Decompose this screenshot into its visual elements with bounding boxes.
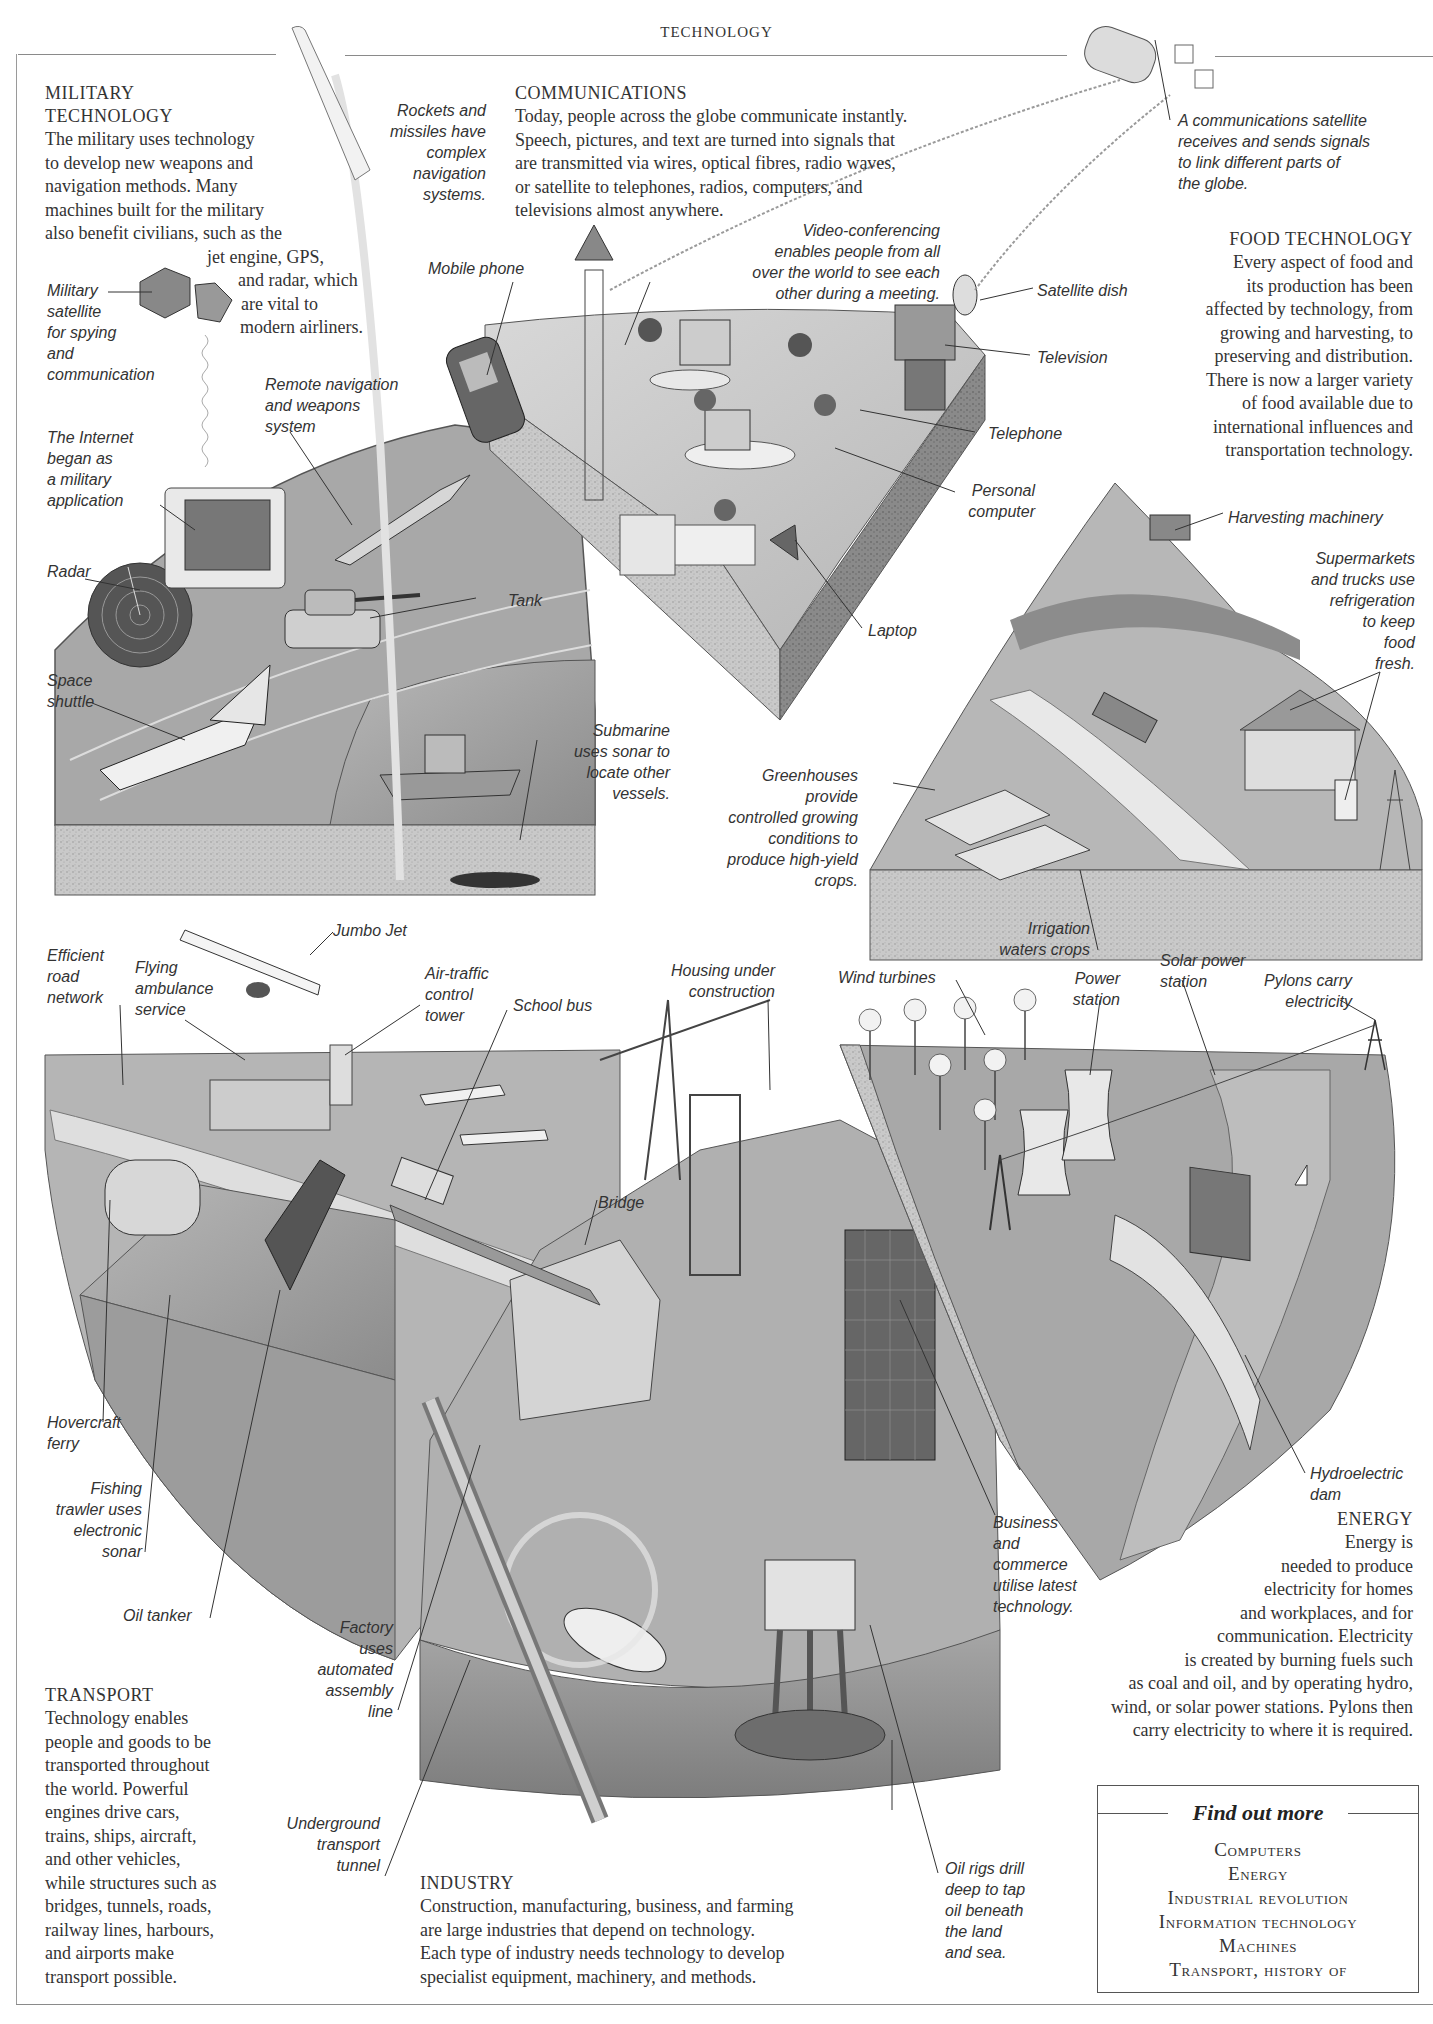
find-out-more-list: Computers Energy Industrial revolution I… bbox=[1098, 1838, 1418, 1982]
military-body-line: to develop new weapons and bbox=[45, 152, 365, 176]
food-heading: FOOD TECHNOLOGY bbox=[1100, 228, 1413, 251]
caption-irrigation: Irrigation waters crops bbox=[960, 918, 1090, 960]
section-industry: INDUSTRY Construction, manufacturing, bu… bbox=[420, 1872, 920, 1989]
find-out-more-title: Find out more bbox=[1098, 1800, 1418, 1826]
section-communications: COMMUNICATIONS Today, people across the … bbox=[515, 82, 1015, 223]
energy-body-line: carry electricity to where it is require… bbox=[1000, 1719, 1413, 1743]
communications-body-line: or satellite to telephones, radios, comp… bbox=[515, 176, 1015, 200]
communications-body-line: are transmitted via wires, optical fibre… bbox=[515, 152, 1015, 176]
transport-body-line: railway lines, harbours, bbox=[45, 1919, 285, 1943]
caption-factory: Factory uses automated assembly line bbox=[300, 1617, 393, 1722]
communications-body-line: Speech, pictures, and text are turned in… bbox=[515, 129, 1015, 153]
military-heading-line1: MILITARY bbox=[45, 82, 365, 105]
industry-heading: INDUSTRY bbox=[420, 1872, 920, 1895]
caption-military-satellite: Military satellite for spying and commun… bbox=[47, 280, 177, 385]
food-body-line: its production has been bbox=[1100, 275, 1413, 299]
military-body-line: machines built for the military bbox=[45, 199, 365, 223]
caption-video-conferencing: Video-conferencing enables people from a… bbox=[715, 220, 940, 304]
industry-body-line: Each type of industry needs technology t… bbox=[420, 1942, 920, 1966]
caption-school-bus: School bus bbox=[513, 995, 592, 1016]
caption-hydroelectric: Hydroelectric dam bbox=[1310, 1463, 1403, 1505]
communications-body-line: Today, people across the globe communica… bbox=[515, 105, 1015, 129]
caption-greenhouses: Greenhouses provide controlled growing c… bbox=[680, 765, 858, 891]
find-out-more-link-machines[interactable]: Machines bbox=[1098, 1934, 1418, 1958]
military-heading-line2: TECHNOLOGY bbox=[45, 105, 365, 128]
caption-supermarkets: Supermarkets and trucks use refrigeratio… bbox=[1260, 548, 1415, 674]
caption-tank: Tank bbox=[508, 590, 542, 611]
caption-television: Television bbox=[1037, 347, 1108, 368]
caption-radar: Radar bbox=[47, 561, 91, 582]
communications-heading: COMMUNICATIONS bbox=[515, 82, 1015, 105]
find-out-more-link-industrial-revolution[interactable]: Industrial revolution bbox=[1098, 1886, 1418, 1910]
find-out-more-link-transport-history[interactable]: Transport, history of bbox=[1098, 1958, 1418, 1982]
caption-wind-turbines: Wind turbines bbox=[838, 967, 936, 988]
food-body-line: Every aspect of food and bbox=[1100, 251, 1413, 275]
caption-comm-satellite: A communications satellite receives and … bbox=[1178, 110, 1408, 194]
energy-body-line: wind, or solar power stations. Pylons th… bbox=[1000, 1696, 1413, 1720]
transport-body-line: trains, ships, aircraft, bbox=[45, 1825, 285, 1849]
caption-telephone: Telephone bbox=[988, 423, 1062, 444]
military-body-line: The military uses technology bbox=[45, 128, 365, 152]
caption-solar-power: Solar power station bbox=[1160, 950, 1245, 992]
caption-efficient-road: Efficient road network bbox=[47, 945, 104, 1008]
transport-body-line: transported throughout bbox=[45, 1754, 285, 1778]
industry-body-line: specialist equipment, machinery, and met… bbox=[420, 1966, 920, 1990]
caption-housing: Housing under construction bbox=[640, 960, 775, 1002]
transport-body-line: and airports make bbox=[45, 1942, 285, 1966]
military-body-line: navigation methods. Many bbox=[45, 175, 365, 199]
food-body-line: affected by technology, from bbox=[1100, 298, 1413, 322]
caption-internet: The Internet began as a military applica… bbox=[47, 427, 167, 511]
caption-personal-computer: Personal computer bbox=[925, 480, 1035, 522]
section-transport: TRANSPORT Technology enables people and … bbox=[45, 1684, 285, 1989]
caption-submarine: Submarine uses sonar to locate other ves… bbox=[540, 720, 670, 804]
caption-oil-rigs: Oil rigs drill deep to tap oil beneath t… bbox=[945, 1858, 1065, 1963]
energy-body-line: is created by burning fuels such bbox=[1000, 1649, 1413, 1673]
energy-body-line: as coal and oil, and by operating hydro, bbox=[1000, 1672, 1413, 1696]
food-body-line: international influences and bbox=[1100, 416, 1413, 440]
caption-rockets: Rockets and missiles have complex naviga… bbox=[368, 100, 486, 205]
caption-oil-tanker: Oil tanker bbox=[123, 1605, 191, 1626]
food-body-line: of food available due to bbox=[1100, 392, 1413, 416]
food-body-line: There is now a larger variety bbox=[1100, 369, 1413, 393]
find-out-more-box: Find out more Computers Energy Industria… bbox=[1097, 1785, 1419, 1993]
caption-pylons: Pylons carry electricity bbox=[1240, 970, 1352, 1012]
transport-body-line: engines drive cars, bbox=[45, 1801, 285, 1825]
caption-flying-ambulance: Flying ambulance service bbox=[135, 957, 213, 1020]
food-body-line: growing and harvesting, to bbox=[1100, 322, 1413, 346]
communications-body-line: televisions almost anywhere. bbox=[515, 199, 1015, 223]
transport-body-line: and other vehicles, bbox=[45, 1848, 285, 1872]
find-out-more-link-energy[interactable]: Energy bbox=[1098, 1862, 1418, 1886]
caption-power-station: Power station bbox=[1050, 968, 1120, 1010]
caption-fishing-trawler: Fishing trawler uses electronic sonar bbox=[30, 1478, 142, 1562]
transport-body-line: bridges, tunnels, roads, bbox=[45, 1895, 285, 1919]
caption-harvesting-machinery: Harvesting machinery bbox=[1228, 507, 1383, 528]
find-out-more-link-information-technology[interactable]: Information technology bbox=[1098, 1910, 1418, 1934]
caption-satellite-dish: Satellite dish bbox=[1037, 280, 1128, 301]
find-out-more-link-computers[interactable]: Computers bbox=[1098, 1838, 1418, 1862]
caption-business: Business and commerce utilise latest tec… bbox=[993, 1512, 1128, 1617]
caption-remote-navigation: Remote navigation and weapons system bbox=[265, 374, 425, 437]
caption-space-shuttle: Space shuttle bbox=[47, 670, 94, 712]
military-body-line: also benefit civilians, such as the bbox=[45, 222, 365, 246]
caption-underground: Underground transport tunnel bbox=[255, 1813, 380, 1876]
caption-hovercraft: Hovercraft ferry bbox=[47, 1412, 121, 1454]
industry-body-line: are large industries that depend on tech… bbox=[420, 1919, 920, 1943]
caption-jumbo-jet: Jumbo Jet bbox=[333, 920, 407, 941]
food-body-line: transportation technology. bbox=[1100, 439, 1413, 463]
transport-body-line: the world. Powerful bbox=[45, 1778, 285, 1802]
food-body-line: preserving and distribution. bbox=[1100, 345, 1413, 369]
transport-body-line: people and goods to be bbox=[45, 1731, 285, 1755]
transport-body-line: Technology enables bbox=[45, 1707, 285, 1731]
caption-air-traffic: Air-traffic control tower bbox=[425, 963, 489, 1026]
section-food: FOOD TECHNOLOGY Every aspect of food and… bbox=[1100, 228, 1413, 463]
energy-body-line: communication. Electricity bbox=[1000, 1625, 1413, 1649]
transport-heading: TRANSPORT bbox=[45, 1684, 285, 1707]
caption-bridge: Bridge bbox=[598, 1192, 644, 1213]
military-body-line: jet engine, GPS, bbox=[45, 246, 365, 270]
transport-body-line: transport possible. bbox=[45, 1966, 285, 1990]
caption-mobile-phone: Mobile phone bbox=[428, 258, 524, 279]
transport-body-line: while structures such as bbox=[45, 1872, 285, 1896]
industry-body-line: Construction, manufacturing, business, a… bbox=[420, 1895, 920, 1919]
caption-laptop: Laptop bbox=[868, 620, 917, 641]
